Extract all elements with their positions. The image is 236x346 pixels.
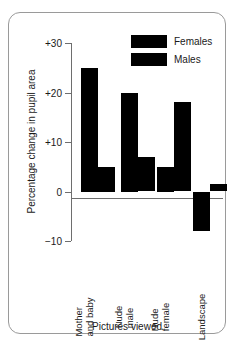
y-tick-label: +30: [45, 38, 62, 49]
y-tick-mark: [65, 241, 71, 242]
y-tick-label: +20: [45, 87, 62, 98]
figure-container: Percentage change in pupil area Females …: [0, 0, 236, 346]
y-tick-mark: [65, 93, 71, 94]
x-axis-title: Pictures viewed: [9, 321, 236, 332]
plot-area: +30+20+100−10: [71, 43, 223, 241]
y-tick-mark: [65, 142, 71, 143]
y-tick-mark: [65, 43, 71, 44]
bar: [121, 93, 138, 192]
y-tick-label: +10: [45, 137, 62, 148]
bar: [81, 68, 98, 192]
x-category-label: Landscape: [192, 306, 222, 317]
bar: [193, 192, 210, 232]
bar: [210, 184, 227, 191]
bar: [138, 157, 155, 192]
y-axis-line: [71, 43, 72, 241]
bar: [98, 167, 115, 192]
x-category-label: Nudefemale: [156, 295, 186, 317]
y-tick-label: 0: [56, 186, 62, 197]
y-axis-title: Percentage change in pupil area: [23, 41, 39, 241]
y-axis-title-text: Percentage change in pupil area: [26, 69, 37, 213]
y-tick-label: −10: [45, 236, 62, 247]
bar: [174, 102, 191, 191]
x-category-label-text: Landscape: [196, 294, 207, 340]
x-category-label: Motherand baby: [80, 295, 110, 317]
bar: [157, 167, 174, 192]
y-tick-mark: [65, 192, 71, 193]
chart-frame: Percentage change in pupil area Females …: [8, 12, 226, 334]
x-axis-category-labels: Motherand babyNudemaleNudefemaleLandscap…: [71, 245, 223, 317]
x-category-label: Nudemale: [120, 295, 150, 317]
